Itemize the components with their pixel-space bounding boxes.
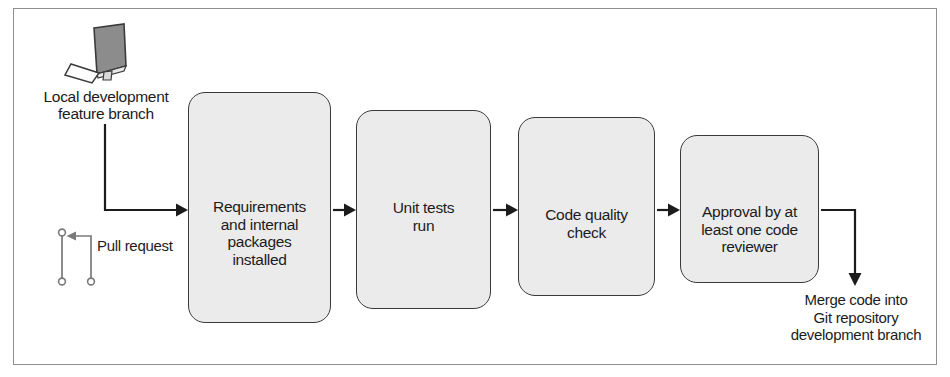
step-label-requirements-installed: Requirements and internal packages insta…	[193, 198, 326, 268]
step-label-code-quality-check: Code quality check	[523, 206, 650, 241]
step-box-code-reviewer-approval[interactable]: Approval by at least one code reviewer	[680, 135, 819, 283]
step-box-unit-tests-run[interactable]: Unit tests run	[356, 110, 491, 309]
local-development-feature-branch-label: Local development feature branch	[26, 88, 186, 122]
step-label-code-reviewer-approval: Approval by at least one code reviewer	[685, 203, 814, 256]
diagram-canvas: Local development feature branch Pull re…	[0, 0, 950, 377]
merge-code-outcome-label: Merge code into Git repository developme…	[770, 291, 942, 344]
step-label-unit-tests-run: Unit tests run	[361, 199, 486, 234]
step-box-requirements-installed[interactable]: Requirements and internal packages insta…	[188, 92, 331, 323]
step-box-code-quality-check[interactable]: Code quality check	[518, 117, 655, 296]
